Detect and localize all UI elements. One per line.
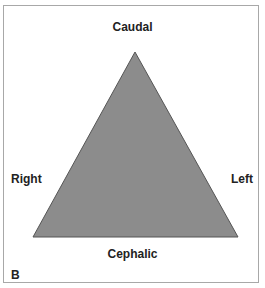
label-left: Left (231, 172, 253, 186)
label-cephalic: Cephalic (0, 247, 265, 261)
triangle-shape (0, 0, 265, 288)
panel-label: B (11, 268, 20, 282)
label-right: Right (11, 172, 42, 186)
label-caudal: Caudal (0, 20, 265, 34)
